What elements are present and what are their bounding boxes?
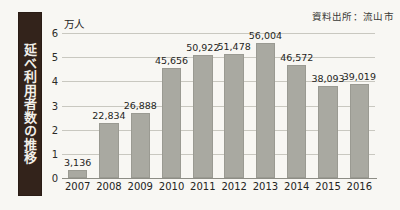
bar [224,54,243,178]
y-axis-tick-label: 6 [46,28,58,39]
x-axis-tick-label: 2014 [284,181,309,192]
bar-value-label: 38,093 [311,73,344,84]
bar-value-label: 39,019 [343,71,376,82]
y-axis-tick-label: 3 [46,100,58,111]
x-axis-tick-label: 2010 [159,181,184,192]
bar-value-label: 50,922 [186,42,219,53]
bar [350,84,369,178]
y-axis-tick-label: 0 [46,173,58,184]
chart-figure: 延べ利用者数の推移 資料出所：流山市 万人 01234563,13622,834… [0,0,400,210]
gridline [62,33,375,34]
bar-value-label: 3,136 [64,157,91,168]
chart-vertical-title-text: 延べ利用者数の推移 [23,43,36,165]
x-axis-tick-label: 2013 [253,181,278,192]
x-axis-tick-label: 2007 [65,181,90,192]
x-axis-tick-label: 2011 [190,181,215,192]
gridline [62,57,375,58]
y-axis-tick-label: 1 [46,148,58,159]
x-axis-tick-label: 2012 [221,181,246,192]
y-axis-tick-label: 5 [46,52,58,63]
y-axis-tick-label: 4 [46,76,58,87]
chart-plot-area: 01234563,13622,83426,88845,65650,92251,4… [62,33,375,178]
bar [68,170,87,178]
bar-value-label: 26,888 [124,100,157,111]
bar [318,86,337,178]
bar [256,43,275,178]
y-axis-unit-label: 万人 [64,16,84,31]
bar [162,68,181,178]
bar-value-label: 45,656 [155,55,188,66]
bar [193,55,212,178]
chart-source-note: 資料出所：流山市 [312,9,394,23]
bar-value-label: 22,834 [92,110,125,121]
bar-value-label: 56,004 [249,30,282,41]
x-axis-tick-label: 2015 [315,181,340,192]
x-axis-tick-label: 2009 [128,181,153,192]
bar [131,113,150,178]
chart-vertical-title: 延べ利用者数の推移 [18,12,42,196]
bar-value-label: 51,478 [218,41,251,52]
x-axis-tick-labels: 2007200820092010201120122013201420152016 [62,181,375,197]
x-axis-tick-label: 2016 [347,181,372,192]
x-axis-line [62,178,377,179]
y-axis-tick-label: 2 [46,124,58,135]
x-axis-tick-label: 2008 [96,181,121,192]
bar [99,123,118,178]
bar-value-label: 46,572 [280,52,313,63]
bar [287,65,306,178]
